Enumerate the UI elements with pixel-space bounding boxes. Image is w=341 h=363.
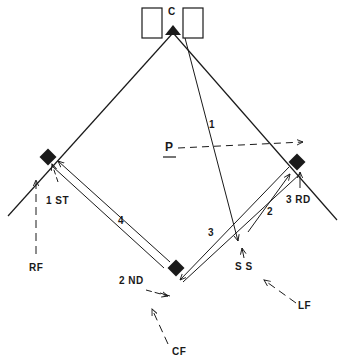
throw-4-number: 4 bbox=[118, 215, 124, 226]
throw-1-number: 1 bbox=[209, 119, 215, 130]
third-base-label: 3 RD bbox=[286, 194, 311, 205]
foul-line-third bbox=[174, 34, 337, 220]
pitcher-path bbox=[178, 142, 303, 148]
center-field-label: CF bbox=[172, 346, 186, 357]
left-fielder-path bbox=[264, 280, 296, 303]
throw-4-line-a bbox=[58, 161, 170, 262]
second-baseman-path bbox=[146, 290, 168, 296]
foul-line-first bbox=[8, 34, 172, 216]
right-field-label: RF bbox=[29, 262, 43, 273]
batter-box-right bbox=[183, 8, 203, 38]
center-fielder-path bbox=[152, 309, 168, 344]
batter-box-left bbox=[142, 8, 162, 38]
shortstop-path bbox=[242, 248, 244, 258]
second-base-icon bbox=[168, 260, 185, 277]
catcher-label: C bbox=[168, 6, 176, 17]
throw-2-number: 2 bbox=[267, 206, 273, 217]
pitcher-label: P bbox=[165, 140, 174, 154]
second-base-label: 2 ND bbox=[119, 275, 144, 286]
home-plate-icon bbox=[165, 25, 181, 35]
throw-4-line-b bbox=[52, 166, 164, 268]
throw-1-line bbox=[185, 38, 238, 241]
first-baseman-path bbox=[52, 164, 58, 182]
first-base-label: 1 ST bbox=[46, 195, 69, 206]
throw-3-number: 3 bbox=[208, 227, 214, 238]
shortstop-label: S S bbox=[235, 261, 253, 272]
first-base-icon bbox=[40, 149, 57, 166]
baseball-diagram bbox=[0, 0, 341, 363]
left-field-label: LF bbox=[298, 300, 311, 311]
